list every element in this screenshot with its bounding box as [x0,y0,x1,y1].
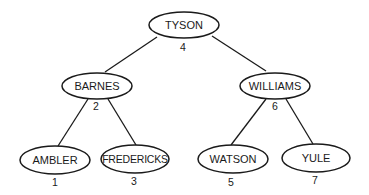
node-barnes-label: BARNES [74,80,119,92]
edge-barnes-ambler [58,99,88,146]
edge-tyson-barnes [105,37,157,72]
node-fredericks-label: FREDERICKS [102,153,168,165]
tree-diagram: TYSON 4 BARNES 2 WILLIAMS 6 AMBLER 1 FRE… [0,0,369,195]
edge-williams-watson [231,99,266,145]
node-fredericks: FREDERICKS 3 [101,145,169,187]
node-barnes-index: 2 [93,100,99,112]
node-tyson-label: TYSON [165,19,203,31]
node-yule-index: 7 [312,174,318,186]
node-williams: WILLIAMS 6 [240,73,310,112]
node-williams-index: 6 [272,100,278,112]
node-tyson: TYSON 4 [149,12,219,53]
node-barnes: BARNES 2 [62,73,132,112]
node-fredericks-index: 3 [131,175,137,187]
node-yule-label: YULE [302,152,331,164]
node-ambler: AMBLER 1 [20,146,90,188]
node-ambler-index: 1 [52,176,58,188]
node-watson-label: WATSON [209,153,256,165]
edge-barnes-fredericks [108,99,136,145]
node-yule: YULE 7 [282,144,350,186]
node-tyson-index: 4 [180,41,186,53]
node-watson-index: 5 [228,176,234,188]
node-ambler-label: AMBLER [32,154,77,166]
edge-tyson-williams [212,36,266,71]
node-watson: WATSON 5 [198,145,268,188]
edge-williams-yule [286,99,313,144]
node-williams-label: WILLIAMS [249,80,302,92]
